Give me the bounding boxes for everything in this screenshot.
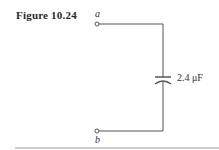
terminal-a-icon	[95, 22, 99, 26]
terminal-b-icon	[95, 129, 99, 133]
circuit-diagram	[0, 0, 219, 150]
